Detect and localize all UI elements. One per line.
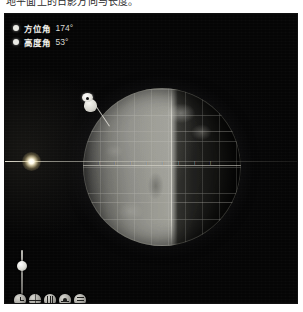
filled-circle-icon [13,25,19,31]
zoom-slider-track[interactable] [21,250,23,294]
layers-icon[interactable] [74,294,86,303]
bottom-toolbar [14,294,86,303]
top-caption: 地平面上的日影方向与长度。 [6,0,296,8]
marker-head [82,93,93,102]
observer-marker[interactable] [81,90,115,130]
terrain-icon[interactable] [59,294,71,303]
zoom-slider[interactable] [16,250,28,294]
legend-item-value: 53° [56,37,69,47]
sun-position-globe-viewer[interactable]: 方位角 174° 高度角 53° [5,14,297,303]
legend-item-altitude: 高度角 53° [13,36,73,47]
filled-circle-icon [13,39,19,45]
legend-item-azimuth: 方位角 174° [13,22,73,33]
legend-item-value: 174° [56,23,74,33]
screenshot-root: 地平面上的日影方向与长度。 方位角 174° 高度角 53° [0,0,303,312]
grid-icon[interactable] [44,294,56,303]
legend-item-label: 高度角 [24,36,52,48]
legend-item-label: 方位角 [24,22,52,34]
legend: 方位角 174° 高度角 53° [13,22,73,50]
sun-light-source [22,152,41,171]
horizon-ray-line [5,161,297,162]
zoom-slider-knob[interactable] [17,261,27,271]
marker-dot-icon [86,97,89,100]
globe-icon[interactable] [29,294,41,303]
clock-icon[interactable] [14,294,26,303]
